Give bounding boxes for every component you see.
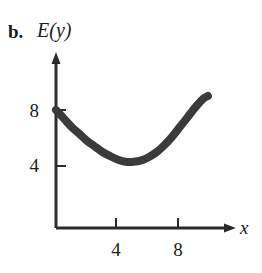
data-curve bbox=[56, 96, 208, 162]
y-axis-arrowhead bbox=[52, 52, 61, 64]
y-axis-title: E(y) bbox=[37, 20, 71, 40]
x-axis-arrowhead bbox=[224, 224, 236, 233]
figure-panel: b. E(y) x 8 4 4 8 bbox=[0, 0, 262, 273]
x-tick-label-8: 8 bbox=[163, 240, 193, 259]
x-axis bbox=[56, 224, 236, 233]
y-tick-label-4: 4 bbox=[13, 156, 39, 175]
part-label: b. bbox=[8, 22, 23, 41]
x-axis-title: x bbox=[240, 218, 248, 237]
y-axis bbox=[52, 52, 61, 228]
y-tick-label-8: 8 bbox=[13, 101, 39, 120]
x-tick-label-4: 4 bbox=[101, 240, 131, 259]
